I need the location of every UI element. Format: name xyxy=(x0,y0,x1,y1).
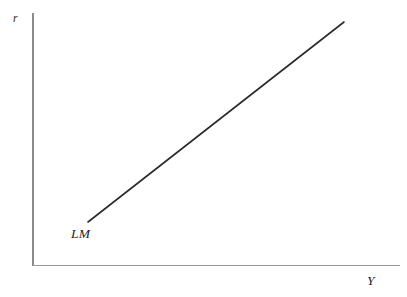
y-axis-label: r xyxy=(13,13,17,25)
lm-curve-label: LM xyxy=(71,227,90,241)
plot-canvas xyxy=(0,0,407,297)
lm-curve-figure: r Y LM xyxy=(0,0,407,297)
x-axis-label: Y xyxy=(367,274,375,288)
lm-curve-line xyxy=(88,22,344,222)
